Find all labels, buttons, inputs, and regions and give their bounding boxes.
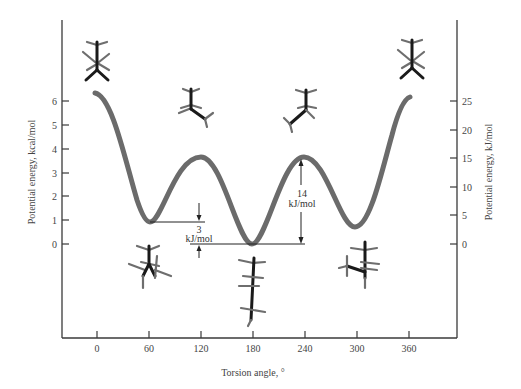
- x-tick-label: 300: [350, 343, 365, 354]
- y-right-tick-label: 20: [462, 125, 472, 136]
- y-axis-title-left: Potential energy, kcal/mol: [26, 120, 37, 225]
- x-tick-label: 60: [144, 343, 154, 354]
- molecule-60deg-icon: [129, 246, 171, 288]
- x-tick-label: 120: [194, 343, 209, 354]
- y-tick-label: 2: [52, 191, 57, 202]
- annotation-3kj: [150, 203, 305, 258]
- molecule-180deg-icon: [239, 258, 265, 326]
- x-ticks: [97, 331, 409, 338]
- x-tick-label: 0: [95, 343, 100, 354]
- y-left-tick-labels: 0 1 2 3 4 5 6: [52, 96, 57, 250]
- x-tick-label: 180: [246, 343, 261, 354]
- y-right-ticks: [450, 101, 457, 244]
- y-tick-label: 3: [52, 168, 57, 179]
- y-right-tick-labels: 0 5 10 15 20 25: [462, 96, 472, 250]
- y-right-tick-label: 0: [462, 239, 467, 250]
- y-tick-label: 1: [52, 215, 57, 226]
- molecule-360deg-icon: [398, 40, 424, 78]
- y-axis-title-right: Potential energy, kJ/mol: [483, 123, 494, 220]
- x-axis-title: Torsion angle, °: [221, 367, 285, 378]
- y-right-tick-label: 15: [462, 153, 472, 164]
- x-tick-label: 360: [402, 343, 417, 354]
- y-tick-label: 4: [52, 144, 57, 155]
- y-left-ticks: [62, 101, 69, 244]
- molecule-0deg-icon: [83, 42, 109, 80]
- energy-curve: [95, 93, 410, 244]
- y-tick-label: 0: [52, 239, 57, 250]
- molecule-300deg-icon: [339, 242, 379, 288]
- energy-diagram: 0 60 120 180 240 300 360 Torsion angle, …: [0, 0, 521, 389]
- y-right-tick-label: 10: [462, 182, 472, 193]
- molecule-120deg-icon: [179, 89, 213, 127]
- y-right-tick-label: 25: [462, 96, 472, 107]
- x-tick-labels: 0 60 120 180 240 300 360: [95, 343, 417, 354]
- annotation-3-unit: kJ/mol: [185, 233, 212, 244]
- y-tick-label: 5: [52, 120, 57, 131]
- x-tick-label: 240: [298, 343, 313, 354]
- y-tick-label: 6: [52, 96, 57, 107]
- molecule-240deg-icon: [284, 90, 316, 132]
- annotation-14-unit: kJ/mol: [288, 198, 315, 209]
- axes: [62, 20, 457, 338]
- y-right-tick-label: 5: [462, 210, 467, 221]
